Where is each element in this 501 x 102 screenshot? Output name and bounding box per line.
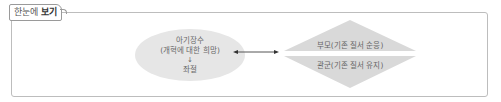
down-arrow-icon: ↓ <box>187 56 193 65</box>
triangle-up-label: 부모(기존 질서 순응) <box>285 39 415 50</box>
tab-label-regular: 한눈에 <box>14 7 41 17</box>
section-tab: 한눈에 보기 <box>9 4 62 21</box>
tab-connector <box>60 9 67 14</box>
ellipse-line-2: (개혁에 대한 희망) <box>160 46 220 56</box>
ellipse-line-3: 좌절 <box>183 65 197 75</box>
triangle-down-label: 관군(기존 질서 유지) <box>285 59 415 70</box>
hero-ellipse-node: 아기장수 (개혁에 대한 희망) ↓ 좌절 <box>135 29 245 81</box>
double-arrow-icon <box>232 47 280 57</box>
ellipse-line-1: 아기장수 <box>176 36 204 46</box>
opposing-forces-triangles <box>282 18 418 90</box>
tab-label-bold: 보기 <box>41 7 57 17</box>
